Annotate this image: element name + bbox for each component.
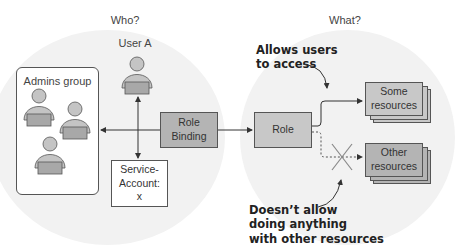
admin-person-icon-1 bbox=[24, 89, 54, 126]
user-a-icon bbox=[122, 57, 152, 94]
admin-person-icon-2 bbox=[60, 102, 90, 139]
admin-person-icon-3 bbox=[35, 137, 65, 174]
